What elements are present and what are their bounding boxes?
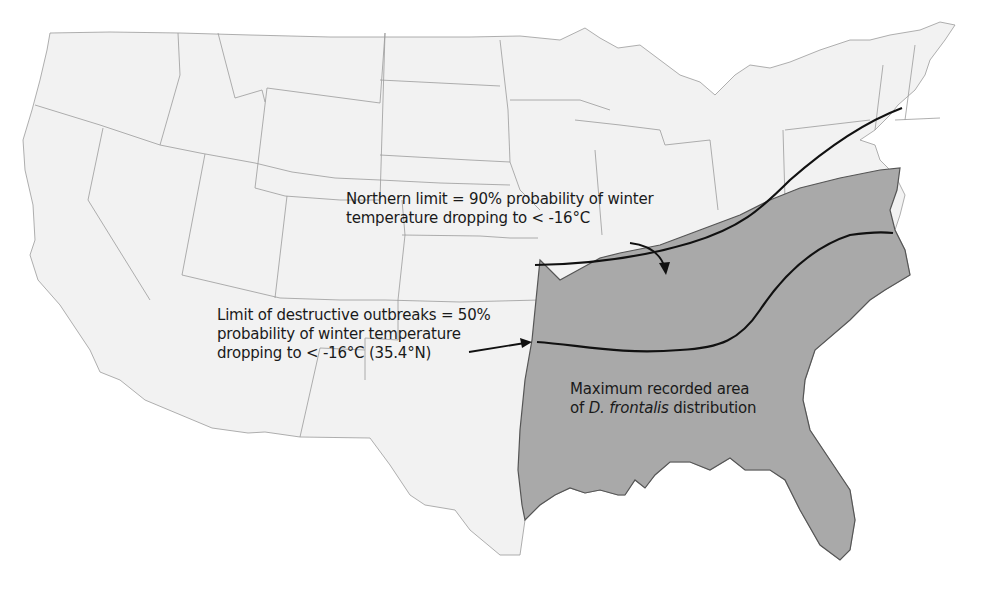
distribution-area-label-line2: of D. frontalis distribution (570, 399, 756, 418)
species-name: D. frontalis (589, 399, 669, 417)
destructive-limit-label-line3: dropping to < -16°C (35.4°N) (217, 344, 491, 363)
distribution-area-label-line1: Maximum recorded area (570, 380, 756, 399)
us-map (0, 0, 1005, 598)
destructive-limit-label-line2: probability of winter temperature (217, 325, 491, 344)
distribution-area-label-suffix: distribution (669, 399, 757, 417)
distribution-area-label: Maximum recorded area of D. frontalis di… (570, 380, 756, 418)
northern-limit-label-line1: Northern limit = 90% probability of wint… (346, 190, 653, 209)
destructive-limit-label: Limit of destructive outbreaks = 50% pro… (217, 306, 491, 363)
distribution-area-label-prefix: of (570, 399, 589, 417)
northern-limit-label-line2: temperature dropping to < -16°C (346, 209, 653, 228)
destructive-limit-label-line1: Limit of destructive outbreaks = 50% (217, 306, 491, 325)
northern-limit-label: Northern limit = 90% probability of wint… (346, 190, 653, 228)
